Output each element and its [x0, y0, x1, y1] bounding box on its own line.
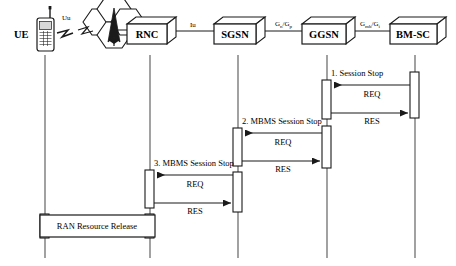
- diagram-canvas: UE Uu RNC Iu: [0, 0, 456, 266]
- mobile-phone-icon: [37, 6, 54, 51]
- message-title-step1: 1. Session Stop: [331, 68, 383, 78]
- interface-label-iu: Iu: [190, 21, 196, 29]
- activation-ggsn-1: [322, 80, 331, 119]
- activation-rnc-1: [145, 170, 154, 208]
- activation-bars: [40, 72, 419, 238]
- message-title-step2: 2. MBMS Session Stop: [242, 116, 322, 126]
- node-label-ggsn: GGSN: [309, 29, 339, 40]
- action-box-label: RAN Resource Release: [57, 221, 137, 231]
- activation-sgsn-2: [233, 172, 242, 212]
- node-label-ue: UE: [14, 29, 29, 40]
- iface-gi-base: /G: [371, 20, 378, 28]
- node-box-sgsn: SGSN: [214, 17, 265, 44]
- node-box-bmsc: BM-SC: [390, 17, 446, 44]
- action-box-ran-resource-release: RAN Resource Release: [40, 215, 155, 237]
- message-label-step2-res: RES: [275, 164, 291, 174]
- svg-text:Gn/Gp: Gn/Gp: [275, 20, 293, 29]
- mbms-session-stop-diagram: UE Uu RNC Iu: [0, 0, 456, 266]
- node-label-sgsn: SGSN: [221, 29, 249, 40]
- activation-sgsn-1: [233, 128, 242, 166]
- message-label-step2-req: REQ: [275, 137, 292, 147]
- message-title-step3: 3. MBMS Session Stop: [154, 158, 234, 168]
- node-label-rnc: RNC: [136, 29, 159, 40]
- iface-gp-base: /G: [283, 20, 290, 28]
- message-step1: 1. Session Stop REQ RES: [331, 68, 410, 126]
- message-label-step3-res: RES: [187, 206, 203, 216]
- svg-text:Gmb/Gi: Gmb/Gi: [360, 20, 380, 29]
- node-box-rnc: RNC: [127, 17, 176, 44]
- interface-label-gn-gp: Gn/Gp: [275, 20, 293, 29]
- iface-gp-sub: p: [290, 24, 293, 29]
- interface-label-gmb-gi: Gmb/Gi: [360, 20, 380, 29]
- message-label-step1-req: REQ: [364, 89, 381, 99]
- activation-bmsc-1: [410, 72, 419, 118]
- node-label-bmsc: BM-SC: [396, 29, 430, 40]
- node-box-ggsn: GGSN: [302, 17, 355, 44]
- message-label-step1-res: RES: [364, 116, 380, 126]
- interface-label-uu: Uu: [62, 14, 71, 22]
- message-step3: 3. MBMS Session Stop REQ RES: [154, 158, 234, 216]
- iface-gi-sub: i: [378, 24, 380, 29]
- message-label-step3-req: REQ: [187, 179, 204, 189]
- message-step2: 2. MBMS Session Stop REQ RES: [242, 116, 322, 174]
- activation-ggsn-2: [322, 126, 331, 168]
